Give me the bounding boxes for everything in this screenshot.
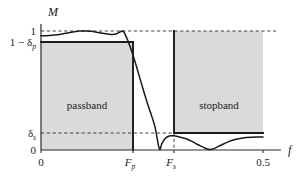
y-tick-label-one-minus-delta-p: 1 − δp (10, 36, 36, 51)
y-tick-label-one-minus-delta-p-text: 1 − δ (10, 36, 32, 48)
svg-text:δs: δs (28, 127, 36, 142)
y-tick-label-delta-s: δs (28, 127, 36, 142)
stopband-label: stopband (199, 99, 239, 111)
passband-region-fill (41, 42, 133, 150)
filter-specification-figure: M f 1 1 − δp δs 0 0 Fp Fs 0. (0, 0, 307, 182)
x-tick-label-fs-sub: s (173, 162, 176, 171)
x-tick-label-fp: Fp (124, 156, 136, 171)
x-axis-title: f (288, 143, 293, 157)
stopband-region-fill (174, 31, 263, 133)
magnitude-response-chart: M f 1 1 − δp δs 0 0 Fp Fs 0. (0, 0, 307, 182)
x-tick-label-zero: 0 (38, 156, 44, 168)
y-tick-label-zero: 0 (31, 144, 37, 156)
x-tick-label-fp-sub: p (130, 162, 135, 171)
y-tick-label-one-minus-delta-p-sub: p (31, 42, 36, 51)
svg-text:1 − δp: 1 − δp (10, 36, 36, 51)
svg-text:Fp: Fp (124, 156, 136, 171)
passband-label: passband (67, 99, 108, 111)
y-axis-title: M (47, 5, 59, 19)
x-tick-label-half: 0.5 (256, 156, 270, 168)
y-tick-label-delta-s-sub: s (33, 133, 36, 142)
x-tick-label-fs: Fs (165, 156, 176, 171)
svg-text:Fs: Fs (165, 156, 176, 171)
